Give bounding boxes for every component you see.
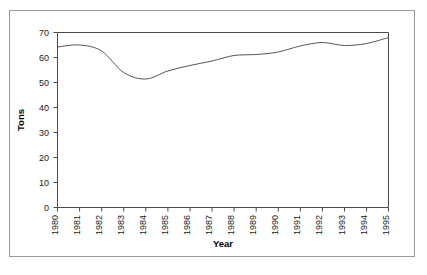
plot-frame — [58, 33, 389, 208]
x-tick-label: 1987 — [204, 215, 214, 235]
x-tick-label: 1985 — [160, 215, 170, 235]
x-tick-label: 1986 — [182, 215, 192, 235]
x-tick-label: 1994 — [359, 215, 369, 235]
chart-figure: 70 60 50 40 30 20 10 0 Tons — [0, 0, 427, 275]
x-tick-label: 1982 — [94, 215, 104, 235]
x-tick-label: 1981 — [72, 215, 82, 235]
x-tick-label: 1992 — [314, 215, 324, 235]
y-tick-label: 0 — [44, 203, 49, 213]
x-axis-tick-labels: 1980 1981 1982 1983 1984 1985 1986 1987 … — [50, 215, 391, 235]
x-tick-label: 1984 — [138, 215, 148, 235]
y-tick-label: 50 — [39, 78, 49, 88]
y-tick-label: 40 — [39, 103, 49, 113]
x-tick-label: 1988 — [226, 215, 236, 235]
x-tick-label: 1995 — [381, 215, 391, 235]
x-axis-ticks — [58, 208, 389, 212]
x-tick-label: 1990 — [270, 215, 280, 235]
x-tick-label: 1991 — [292, 215, 302, 235]
x-axis-title: Year — [213, 238, 233, 249]
x-tick-label: 1993 — [337, 215, 347, 235]
x-tick-label: 1983 — [116, 215, 126, 235]
y-tick-label: 30 — [39, 128, 49, 138]
x-tick-label: 1989 — [248, 215, 258, 235]
y-axis-tick-labels: 70 60 50 40 30 20 10 0 — [39, 28, 49, 213]
line-chart: 70 60 50 40 30 20 10 0 Tons — [0, 0, 427, 275]
y-tick-label: 20 — [39, 153, 49, 163]
y-tick-label: 10 — [39, 178, 49, 188]
y-tick-label: 70 — [39, 28, 49, 38]
x-tick-label: 1980 — [50, 215, 60, 235]
y-axis-ticks — [54, 33, 58, 208]
y-axis-title: Tons — [15, 109, 26, 131]
y-tick-label: 60 — [39, 53, 49, 63]
data-series-line — [58, 38, 389, 80]
